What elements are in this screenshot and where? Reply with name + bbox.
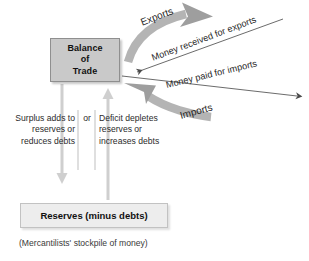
reserves-box: Reserves (minus debts) [20,203,168,228]
balance-of-trade-line-2: of [67,54,102,66]
balance-of-trade-box: Balance of Trade [50,38,120,82]
surplus-column-text: Surplus adds to reserves or reduces debt… [14,113,75,147]
balance-of-trade-label: Balance of Trade [67,43,102,78]
diagram-caption: (Mercantilists' stockpile of money) [19,238,219,248]
reserves-label: Reserves (minus debts) [40,210,147,221]
or-conjunction-label: or [80,113,94,124]
balance-of-trade-line-1: Balance [67,43,102,55]
balance-of-trade-line-3: Trade [67,66,102,78]
mercantilism-balance-of-trade-diagram: Balance of Trade Reserves (minus debts) … [0,0,309,261]
deficit-column-text: Deficit depletes reserves or increases d… [99,113,177,147]
